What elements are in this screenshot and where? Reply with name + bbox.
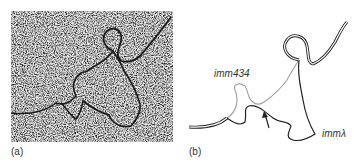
heteroduplex-diagram bbox=[177, 0, 354, 168]
imm434-label: imm434 bbox=[214, 68, 250, 79]
micrograph-image bbox=[11, 11, 173, 142]
imm-lambda-label: immλ bbox=[322, 128, 346, 139]
panel-b: imm434 immλ (b) bbox=[177, 0, 354, 168]
panel-b-label: (b) bbox=[189, 146, 201, 157]
electron-micrograph bbox=[11, 11, 173, 142]
panel-a-label: (a) bbox=[11, 146, 23, 157]
panel-a: (a) bbox=[0, 0, 177, 168]
